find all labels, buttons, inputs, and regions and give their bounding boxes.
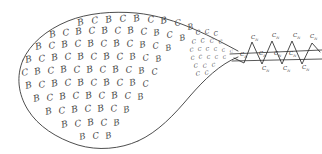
bc-glyph: B	[23, 80, 33, 92]
bc-glyph: C	[90, 77, 98, 88]
bc-glyph: C	[74, 38, 82, 49]
bc-glyph: B	[43, 106, 53, 118]
neck-glyph: C	[213, 46, 218, 52]
bc-glyph: B	[110, 64, 120, 76]
lattice-label-mid: CN	[274, 50, 282, 58]
bc-glyph: B	[95, 103, 105, 114]
bc-glyph: B	[57, 91, 67, 103]
bc-glyph: B	[33, 41, 43, 53]
bc-glyph: C	[90, 51, 98, 62]
lattice-label-subscript: N	[277, 54, 282, 58]
bc-glyph: C	[124, 90, 132, 101]
bc-glyph: C	[62, 27, 70, 38]
bc-glyph: B	[125, 25, 135, 37]
bc-glyph: B	[49, 52, 59, 64]
neck-glyph: C	[206, 54, 211, 60]
bc-glyph: C	[64, 51, 72, 62]
bc-glyph: C	[142, 52, 150, 63]
lattice-label-bottom: CN	[262, 65, 270, 73]
bc-glyph: C	[74, 118, 82, 129]
bc-glyph: B	[59, 39, 69, 51]
lattice-label-mid: CN	[259, 50, 267, 58]
lattice-label-mid: CN	[240, 51, 248, 59]
bc-glyph: B	[111, 38, 121, 50]
bc-glyph: C	[116, 51, 124, 62]
bc-glyph: C	[151, 66, 159, 77]
neck-glyph: C	[204, 69, 210, 76]
bc-glyph: B	[77, 131, 87, 142]
bc-glyph: C	[99, 64, 107, 75]
neck-glyph: C	[195, 70, 201, 77]
bc-glyph: C	[91, 15, 100, 26]
bc-glyph: B	[101, 51, 111, 63]
bc-glyph: C	[64, 77, 72, 88]
lattice-label-subscript: N	[313, 37, 318, 41]
bc-glyph: B	[137, 39, 146, 50]
bc-glyph: B	[127, 51, 137, 62]
neck-glyph: C	[191, 38, 197, 45]
lattice-label-subscript: N	[275, 36, 280, 40]
neck-glyph: C	[195, 28, 201, 37]
bc-glyph: B	[49, 78, 59, 90]
bc-glyph: C	[140, 26, 148, 37]
lattice-label-top: CN	[251, 34, 259, 42]
bc-glyph: C	[174, 17, 182, 28]
bc-glyph: C	[100, 38, 108, 49]
bc-glyph: C	[84, 103, 92, 114]
bc-glyph: C	[47, 65, 55, 76]
bc-glyph: C	[100, 117, 108, 128]
neck-glyph: C	[200, 37, 206, 44]
lattice-label-top: CN	[293, 32, 301, 40]
neck-glyph: C	[190, 54, 195, 61]
bc-glyph: C	[142, 78, 150, 89]
bc-glyph: B	[136, 65, 145, 76]
bc-glyph: B	[31, 93, 41, 105]
bc-glyph: C	[38, 79, 46, 90]
bc-glyph: B	[101, 77, 111, 89]
neck-glyph: C	[218, 38, 223, 45]
neck-glyph: C	[198, 53, 203, 60]
bc-glyph: C	[166, 29, 174, 40]
bc-glyph: B	[127, 77, 137, 88]
neck-glyph: C	[197, 45, 202, 51]
neck-glyph: C	[214, 54, 219, 60]
bc-glyph: B	[186, 22, 195, 32]
bc-glyph: B	[131, 13, 141, 25]
bc-glyph: C	[73, 64, 81, 75]
lattice-label-bottom: CN	[283, 65, 291, 73]
bc-glyph: C	[116, 77, 124, 88]
bc-glyph: C	[126, 38, 134, 49]
lattice-label-subscript: N	[292, 54, 297, 58]
neck-glyph: C	[189, 46, 194, 53]
lattice-labels: CNCNCNCNCNCNCNCNCNCNCN	[240, 32, 318, 73]
neck-glyph: C	[229, 48, 234, 54]
neck-glyph-field: CCCCCCCCCCCCCCCCCCCCCCC	[189, 27, 234, 77]
figure-canvas: BCBCBCBCBBCBCBCBCBCBBCBCBCBCBCBBCBCBCBCB…	[0, 0, 322, 154]
bc-glyph: B	[85, 117, 95, 129]
neck-glyph: C	[204, 27, 210, 35]
bc-glyph: B	[151, 27, 160, 38]
bc-glyph: B	[121, 104, 130, 115]
neck-glyph: C	[202, 62, 208, 69]
neck-glyph: C	[222, 54, 227, 60]
bc-glyph: B	[178, 33, 187, 43]
lattice-label-bottom: CN	[302, 64, 310, 72]
bc-glyph: B	[109, 90, 119, 102]
bc-glyph: B	[75, 51, 85, 62]
neck-glyph: C	[213, 29, 219, 37]
bc-glyph: C	[48, 40, 56, 51]
bc-glyph: B	[103, 14, 113, 25]
bc-glyph: C	[119, 13, 127, 24]
neck-glyph: C	[221, 47, 226, 53]
lattice-label-subscript: N	[296, 36, 301, 40]
neck-glyph: C	[193, 62, 199, 69]
bc-glyph: B	[85, 38, 95, 49]
lattice-label-subscript: N	[265, 69, 270, 73]
bc-glyph: B	[69, 104, 79, 116]
bc-glyph: B	[99, 25, 109, 36]
bc-glyph: B	[84, 64, 94, 75]
bc-glyph: B	[75, 77, 85, 88]
bc-glyph: C	[98, 90, 106, 101]
lattice-label-subscript: N	[286, 69, 291, 73]
bc-glyph: C	[46, 92, 54, 103]
